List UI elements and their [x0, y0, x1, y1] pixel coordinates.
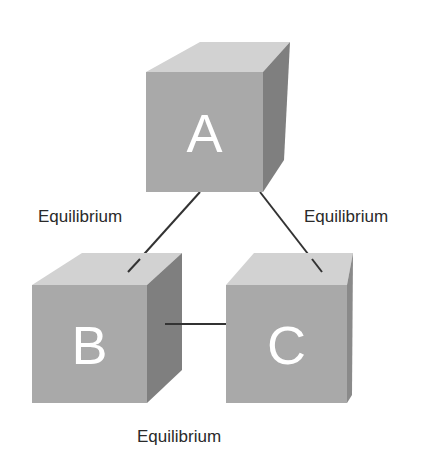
- cube-c-top: [226, 253, 353, 285]
- diagram-canvas: [0, 0, 445, 467]
- edge-a-c-label: Equilibrium: [304, 207, 388, 227]
- node-b-label: B: [32, 318, 147, 372]
- edge-b-c-label: Equilibrium: [137, 427, 221, 447]
- node-a-label: A: [146, 106, 263, 160]
- node-c-label: C: [226, 318, 347, 372]
- edge-a-b-label: Equilibrium: [38, 207, 122, 227]
